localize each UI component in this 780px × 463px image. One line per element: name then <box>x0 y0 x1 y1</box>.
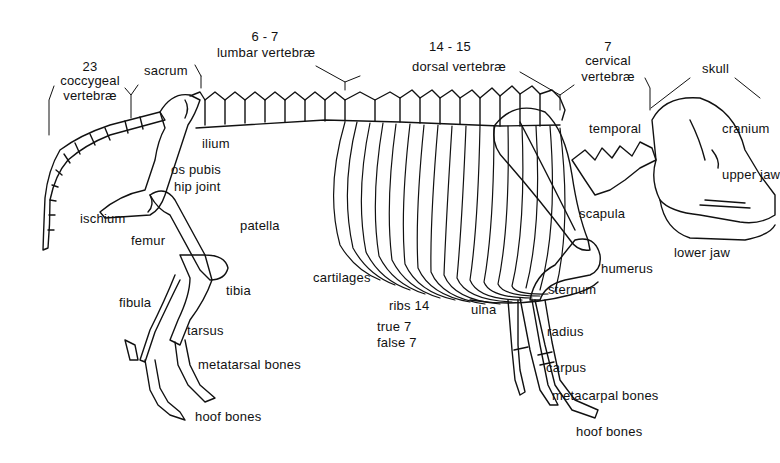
label-metatarsal-bones: metatarsal bones <box>198 358 301 372</box>
label-sacrum: sacrum <box>144 64 188 78</box>
label-temporal: temporal <box>589 122 641 136</box>
label-dorsal-count: 14 - 15 <box>410 40 490 54</box>
label-dorsal-vertebrae: dorsal vertebræ <box>412 60 506 74</box>
label-ribs-true: true 7 <box>377 320 411 334</box>
label-tibia: tibia <box>226 284 251 298</box>
label-skull: skull <box>702 62 729 76</box>
label-fibula: fibula <box>119 296 151 310</box>
label-cervical: cervical <box>576 54 640 68</box>
cervical-vertebrae <box>572 142 656 195</box>
label-fore-hoof-bones: hoof bones <box>576 425 642 439</box>
label-tarsus: tarsus <box>187 324 224 338</box>
label-os-pubis: os pubis <box>171 163 221 177</box>
label-cartilages: cartilages <box>313 271 371 285</box>
label-carpus: carpus <box>546 361 586 375</box>
label-lumbar-vertebrae: lumbar vertebræ <box>217 46 315 60</box>
label-ischium: ischium <box>80 212 125 226</box>
label-humerus: humerus <box>601 262 653 276</box>
tail-vertebrae <box>43 112 165 250</box>
label-lower-jaw: lower jaw <box>674 246 730 260</box>
label-hip-joint: hip joint <box>174 180 221 194</box>
label-coccygeal-count: 23 <box>60 60 120 74</box>
label-ilium: ilium <box>202 137 230 151</box>
pelvis <box>100 95 200 218</box>
label-cranium: cranium <box>722 122 770 136</box>
label-coccygeal: coccygeal <box>55 74 125 88</box>
label-femur: femur <box>131 234 165 248</box>
label-hind-hoof-bones: hoof bones <box>195 410 261 424</box>
label-lumbar-count: 6 - 7 <box>215 30 315 44</box>
label-ribs: ribs 14 <box>389 299 429 313</box>
label-patella: patella <box>240 219 280 233</box>
vertebral-column <box>190 86 565 128</box>
label-ulna: ulna <box>471 303 496 317</box>
label-radius: radius <box>547 325 584 339</box>
label-cervical-vertebrae: vertebræ <box>576 70 640 84</box>
label-ribs-false: false 7 <box>377 336 417 350</box>
label-upper-jaw: upper jaw <box>722 168 780 182</box>
label-cervical-count: 7 <box>578 40 638 54</box>
label-sternum: sternum <box>548 283 596 297</box>
label-coccygeal-vertebrae: vertebræ <box>55 89 125 103</box>
label-metacarpal-bones: metacarpal bones <box>552 389 659 403</box>
label-scapula: scapula <box>579 207 625 221</box>
